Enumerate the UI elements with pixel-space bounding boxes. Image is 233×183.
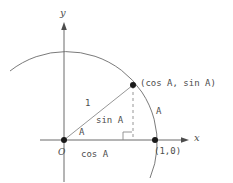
point-origin-marker: [61, 137, 67, 143]
y-axis-label: y: [60, 8, 66, 18]
hypotenuse-length-label: 1: [85, 99, 90, 108]
unit-circle-figure: y x O (cos A, sin A) (1,0) 1 sin A cos A…: [0, 0, 233, 183]
point-coordinates-label: (cos A, sin A): [140, 79, 216, 88]
cos-a-label: cos A: [81, 150, 108, 159]
unit-circle-arc: [10, 52, 157, 178]
figure-canvas: [0, 0, 233, 183]
y-axis-arrowhead: [61, 22, 67, 30]
unit-point-label: (1,0): [154, 147, 181, 156]
x-axis-arrowhead: [181, 137, 189, 143]
sin-a-label: sin A: [96, 116, 123, 125]
x-axis-label: x: [194, 133, 200, 143]
point-unit-marker: [152, 137, 158, 143]
right-angle-marker: [123, 132, 132, 140]
point-cos-sin-marker: [130, 82, 136, 88]
origin-label: O: [58, 148, 65, 157]
arc-angle-a-label: A: [156, 107, 161, 116]
angle-a-origin-label: A: [79, 128, 84, 137]
